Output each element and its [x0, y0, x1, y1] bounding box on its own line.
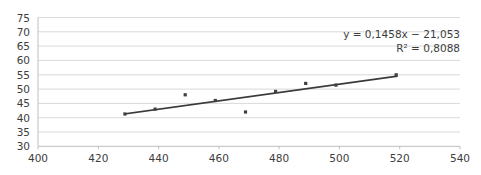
- x-tick-label: 540: [440, 152, 480, 164]
- x-tick-label: 520: [380, 152, 420, 164]
- data-point: [214, 99, 217, 102]
- scatter-chart: 75 70 65 60 55 50 45 40 35 30 400 420 44…: [0, 0, 481, 175]
- x-tick-label: 500: [319, 152, 359, 164]
- data-point: [123, 112, 126, 115]
- trendline-equation: y = 0,1458x − 21,053: [343, 28, 460, 42]
- data-point: [304, 82, 307, 85]
- data-point: [334, 84, 337, 87]
- y-tick-label: 55: [4, 69, 30, 81]
- y-tick-label: 70: [4, 26, 30, 38]
- y-tick-label: 35: [4, 126, 30, 138]
- x-tick-label: 420: [78, 152, 118, 164]
- y-tick-label: 40: [4, 112, 30, 124]
- y-tick-label: 30: [4, 140, 30, 152]
- trendline: [125, 76, 396, 114]
- data-point: [244, 110, 247, 113]
- plot-area: [0, 0, 481, 175]
- data-point: [184, 93, 187, 96]
- x-tick-label: 400: [18, 152, 58, 164]
- data-point: [395, 73, 398, 76]
- x-tick-label: 480: [259, 152, 299, 164]
- data-point: [274, 90, 277, 93]
- y-tick-label: 50: [4, 83, 30, 95]
- y-tick-label: 60: [4, 54, 30, 66]
- trendline-annotation: y = 0,1458x − 21,053 R² = 0,8088: [343, 28, 460, 55]
- data-point: [154, 108, 157, 111]
- y-tick-label: 65: [4, 40, 30, 52]
- r-squared-label: R² = 0,8088: [343, 42, 460, 56]
- x-tick-label: 460: [199, 152, 239, 164]
- x-tick-label: 440: [139, 152, 179, 164]
- y-tick-label: 75: [4, 12, 30, 24]
- y-tick-label: 45: [4, 97, 30, 109]
